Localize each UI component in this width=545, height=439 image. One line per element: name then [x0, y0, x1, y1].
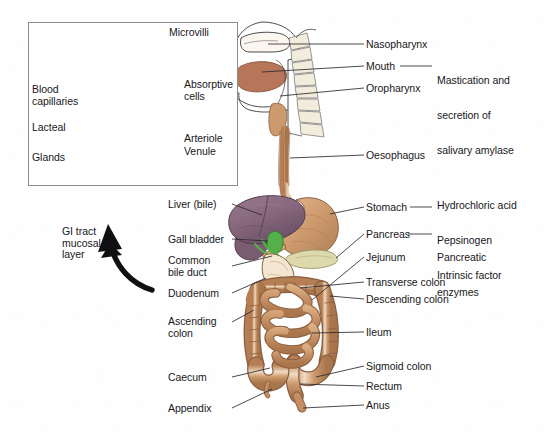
label-common-bile-duct: Common bile duct — [168, 255, 210, 278]
annotation-mastication-line-1: Mastication and — [437, 75, 514, 87]
label-pancreas: Pancreas — [366, 229, 410, 241]
label-ascending-colon: Ascending colon — [168, 316, 217, 339]
label-stomach: Stomach — [366, 202, 407, 214]
inset-label-absorptive-cells: Absorptive cells — [184, 79, 233, 102]
label-gall-bladder: Gall bladder — [168, 234, 224, 246]
label-anus: Anus — [366, 400, 390, 412]
annotation-gastric-line-1: Hydrochloric acid — [437, 200, 517, 212]
label-oesophagus: Oesophagus — [366, 150, 425, 162]
annotation-mastication-line-3: salivary amylase — [437, 145, 514, 157]
label-jejunum: Jejunum — [366, 252, 405, 264]
digestive-system-figure: Microvilli Absorptive cells Arteriole Ve… — [0, 0, 545, 439]
label-transverse-colon: Transverse colon — [366, 277, 445, 289]
inset-label-venule: Venule — [184, 146, 216, 158]
inset-label-lacteal: Lacteal — [32, 122, 66, 134]
label-appendix: Appendix — [168, 403, 211, 415]
annotation-pancreatic-line-2: enzymes — [437, 287, 486, 299]
small-intestine-highlight — [264, 287, 316, 364]
annotation-mastication: Mastication and secretion of salivary am… — [437, 52, 514, 180]
label-rectum: Rectum — [366, 381, 402, 393]
label-liver-bile: Liver (bile) — [168, 199, 216, 211]
inset-label-microvilli: Microvilli — [169, 27, 209, 39]
label-sigmoid-colon: Sigmoid colon — [366, 361, 431, 373]
inset-callout-arrow — [98, 224, 152, 290]
label-oropharynx: Oropharynx — [366, 83, 420, 95]
head-and-pharynx — [229, 22, 324, 137]
oesophagus-organ — [279, 130, 296, 207]
label-duodenum: Duodenum — [168, 288, 219, 300]
inset-callout-label: GI tract mucosal layer — [62, 226, 101, 261]
inset-label-glands: Glands — [32, 152, 65, 164]
label-mouth: Mouth — [366, 61, 395, 73]
label-ileum: Ileum — [366, 327, 391, 339]
label-caecum: Caecum — [168, 372, 207, 384]
inset-label-arteriole: Arteriole — [184, 133, 223, 145]
label-nasopharynx: Nasopharynx — [366, 39, 427, 51]
annotation-pancreatic-enzymes: Pancreatic enzymes — [437, 229, 486, 322]
annotation-mastication-line-2: secretion of — [437, 110, 514, 122]
inset-label-blood-capillaries: Blood capillaries — [32, 84, 78, 107]
annotation-pancreatic-line-1: Pancreatic — [437, 252, 486, 264]
